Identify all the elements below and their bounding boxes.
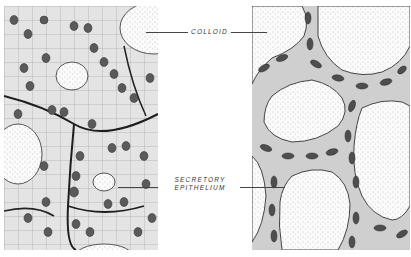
epithelium-leader-line [118,187,158,188]
secretory-epithelium-label: SECRETORY EPITHELIUM [170,176,230,192]
epithelium-label-line1: SECRETORY [170,176,230,184]
colloid-leader-line-right [231,32,267,33]
left-panel-active-follicles [4,6,158,250]
active-follicle-drawing [4,6,158,250]
epithelium-label-line2: EPITHELIUM [170,184,230,192]
colloid-leader-line [146,32,188,33]
inactive-follicle-drawing [252,6,410,250]
colloid-label: COLLOID [188,28,231,36]
epithelium-leader-line-right [240,187,285,188]
right-panel-inactive-follicles [252,6,410,250]
